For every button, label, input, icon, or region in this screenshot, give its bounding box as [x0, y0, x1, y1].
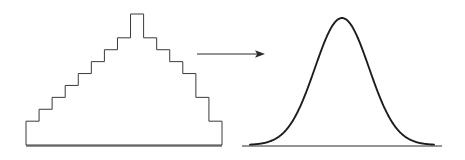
normal-distribution-curve: [250, 18, 434, 145]
figure-container: [0, 0, 465, 160]
histogram-panel: [26, 14, 222, 146]
histogram-outline: [26, 14, 222, 145]
figure-canvas: [0, 0, 465, 160]
transition-arrow: [197, 50, 265, 58]
normal-curve-panel: [242, 18, 442, 146]
